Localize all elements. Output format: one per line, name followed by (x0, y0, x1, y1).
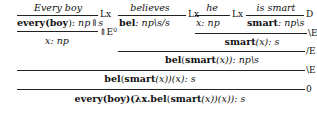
natural-deduction-derivation: Every boy believes he is smart Lx Lx Lx … (0, 0, 317, 127)
rule-label-lx: Lx (232, 9, 243, 19)
leaf-every-boy: Every boy (34, 2, 82, 13)
rule-line-lx-every-boy (17, 15, 98, 16)
rule-line-backslash-e-2 (17, 70, 305, 71)
rule-label-zero: 0 (306, 84, 312, 94)
rule-label-d: D (306, 9, 313, 19)
rule-line-up-e (17, 31, 98, 32)
rule-line-lx-believes (118, 15, 186, 16)
formula-bel: bel: np\s/s (119, 17, 170, 28)
formula-he: x: np (196, 17, 220, 28)
leaf-believes: believes (130, 2, 169, 13)
rule-line-lx-he (195, 15, 230, 16)
rule-line-backslash-e (195, 33, 307, 34)
hypothesis-x-np: x: np (45, 35, 69, 46)
formula-bel-smart-x: bel(smart(x)): np\s (165, 54, 259, 65)
leaf-is-smart: is smart (257, 2, 296, 13)
rule-line-zero (17, 89, 305, 90)
rule-label-up-e: ⇑E0 (99, 27, 117, 37)
rule-line-slash-e (118, 51, 305, 52)
rule-line-d (246, 15, 304, 16)
rule-label-backslash-e-2: \E (306, 65, 316, 75)
formula-smart: smart: np\s (247, 17, 304, 28)
conclusion-formula: every(boy)(λx.bel(smart(x))(x)): s (75, 93, 246, 104)
rule-label-backslash-e: \E (308, 28, 317, 38)
formula-bel-smart-x-applied: bel(smart(x))(x): s (104, 73, 195, 84)
leaf-he: he (206, 2, 218, 13)
rule-label-slash-e: /E (306, 46, 316, 56)
formula-smart-x: smart(x): s (225, 36, 280, 47)
formula-every-boy: every(boy): np⇑s (17, 17, 103, 28)
